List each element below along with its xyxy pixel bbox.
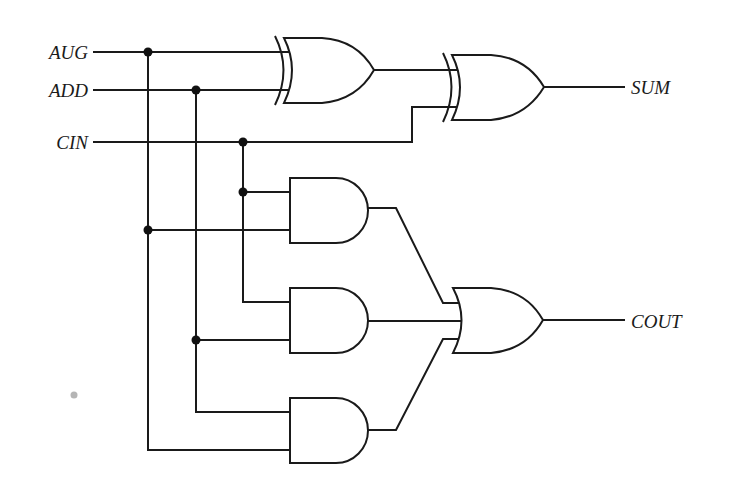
junction-aug [144, 48, 153, 57]
and-gate-2 [290, 288, 368, 353]
junction-add [192, 86, 201, 95]
full-adder-circuit: AUG ADD CIN SUM COUT [0, 0, 729, 496]
junction-aug-and1 [144, 226, 153, 235]
wire-add [93, 90, 290, 412]
xor-gate-1 [275, 36, 374, 105]
input-label-add: ADD [47, 80, 88, 101]
input-label-cin: CIN [56, 132, 89, 153]
junction-add-and2 [192, 336, 201, 345]
input-label-aug: AUG [47, 42, 88, 63]
and-gate-1 [290, 178, 368, 243]
xor-gate-2 [443, 53, 544, 122]
junction-cin-and1 [239, 188, 248, 197]
output-label-sum: SUM [631, 77, 671, 98]
wire-aug [93, 52, 290, 450]
scan-speck [71, 392, 78, 399]
output-label-cout: COUT [631, 311, 683, 332]
and-gate-3 [290, 398, 368, 463]
wire-and3-out [368, 339, 461, 430]
junction-cin [239, 138, 248, 147]
or-gate [453, 288, 543, 353]
wire-and1-out [368, 208, 461, 303]
